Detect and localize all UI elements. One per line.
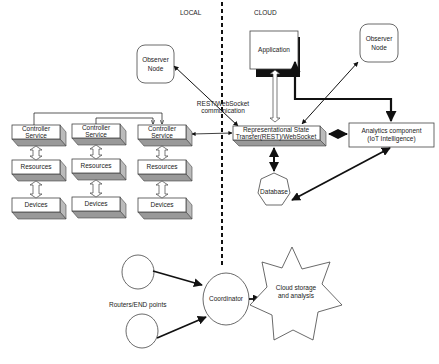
svg-text:Coordinator: Coordinator (209, 295, 244, 302)
local-observer-node: Observer Node (137, 45, 174, 83)
svg-text:Cloud storage: Cloud storage (276, 284, 317, 292)
svg-text:Database: Database (260, 188, 288, 195)
svg-text:Analytics component: Analytics component (362, 127, 422, 135)
router-endpoint-1 (122, 255, 154, 289)
cloud-observer-to-rest-arrow (302, 62, 358, 124)
svg-text:Controller: Controller (82, 124, 111, 131)
svg-text:Resources: Resources (146, 163, 178, 170)
svg-text:Observer: Observer (366, 35, 394, 42)
svg-text:Controller: Controller (22, 125, 51, 132)
svg-text:Node: Node (371, 44, 387, 51)
resources-2: Resources (72, 159, 126, 180)
routers-label: Routers/END points (109, 301, 167, 309)
svg-text:Transfer(REST)/WebSocket: Transfer(REST)/WebSocket (236, 133, 317, 141)
rest-websocket-box: Representational State Transfer(REST)/We… (233, 126, 326, 146)
svg-text:Service: Service (85, 131, 107, 138)
svg-text:Node: Node (148, 65, 164, 72)
devices-3: Devices (138, 198, 192, 219)
devices-1: Devices (12, 198, 66, 219)
architecture-diagram: LOCAL CLOUD Observer Node Controller Ser… (0, 0, 439, 364)
svg-text:REST/WebSocket: REST/WebSocket (197, 100, 249, 107)
svg-text:Controller: Controller (148, 125, 177, 132)
cloud-observer-node: Observer Node (360, 24, 398, 62)
svg-text:Resources: Resources (20, 163, 52, 170)
svg-text:Observer: Observer (142, 56, 170, 63)
svg-text:Devices: Devices (24, 201, 48, 208)
devices-2: Devices (72, 197, 126, 218)
router1-to-coordinator-arrow (153, 271, 202, 285)
application-to-analytics-arrow (295, 62, 391, 121)
svg-text:(IoT Intelligence): (IoT Intelligence) (367, 135, 415, 143)
controller-service-3: Controller Service (138, 125, 192, 146)
database-node: Database (258, 173, 290, 205)
svg-text:Devices: Devices (84, 200, 108, 207)
resources-1: Resources (12, 160, 66, 181)
controller3-rest-arrow (192, 133, 232, 134)
svg-text:and analysis: and analysis (278, 292, 315, 300)
cloud-label: CLOUD (254, 9, 277, 16)
local-label: LOCAL (180, 9, 202, 16)
router-endpoint-2 (126, 314, 158, 348)
controller-service-2: Controller Service (72, 124, 126, 145)
svg-text:Resources: Resources (80, 162, 112, 169)
analytics-component-box: Analytics component (IoT Intelligence) (349, 123, 434, 147)
svg-text:communication: communication (201, 107, 245, 114)
local-observer-to-rest-arrow (174, 66, 238, 126)
svg-text:Service: Service (151, 132, 173, 139)
analytics-database-arrow (292, 148, 390, 200)
router2-to-coordinator-arrow (157, 317, 206, 338)
stack-1: Controller Service Resources Devices (12, 125, 66, 219)
cloud-storage-star: Cloud storage and analysis (250, 247, 342, 340)
application-rest-double-arrow (270, 70, 280, 122)
svg-text:Application: Application (258, 46, 290, 54)
resources-3: Resources (138, 160, 192, 181)
svg-text:Devices: Devices (150, 201, 174, 208)
stack-2: Controller Service Resources Devices (72, 124, 126, 218)
svg-text:Service: Service (25, 132, 47, 139)
coordinator-node: Coordinator (203, 273, 249, 325)
controller-service-1: Controller Service (12, 125, 66, 146)
stack-3: Controller Service Resources Devices (138, 125, 192, 219)
